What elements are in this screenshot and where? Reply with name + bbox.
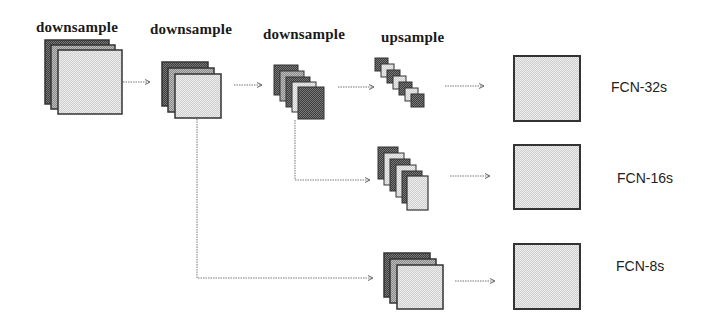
output-fcn8s (514, 244, 580, 309)
upsample-stack-32s (375, 58, 424, 107)
feature-stack-1 (45, 40, 122, 114)
label-fcn16s: FCN-16s (617, 170, 673, 186)
output-fcn16s (514, 145, 580, 209)
upsample-stack-16s (378, 147, 428, 210)
output-fcn32s (514, 56, 580, 121)
feature-stack-3 (274, 65, 324, 119)
skip-connection-pool4 (295, 120, 370, 180)
skip-connection-pool3 (197, 119, 373, 278)
label-fcn8s: FCN-8s (616, 258, 664, 274)
fcn-diagram: downsample downsample downsample upsampl… (0, 0, 707, 327)
diagram-graphics (0, 0, 707, 327)
label-fcn32s: FCN-32s (611, 79, 667, 95)
upsample-stack-8s (384, 253, 443, 309)
feature-stack-2 (162, 62, 221, 118)
